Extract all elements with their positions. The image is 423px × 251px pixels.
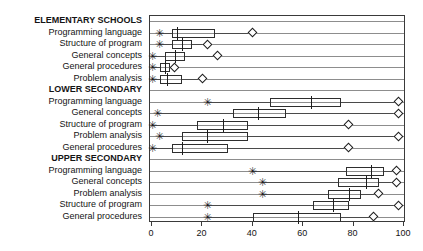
x-tick-mark bbox=[151, 222, 152, 226]
high-outlier-marker bbox=[394, 131, 404, 141]
lower-whisker bbox=[157, 113, 233, 114]
category-label: General concepts bbox=[71, 175, 142, 187]
x-tick-mark bbox=[302, 222, 303, 226]
upper-whisker bbox=[248, 136, 399, 137]
category-label: General concepts bbox=[71, 106, 142, 118]
category-label: Programming language bbox=[48, 95, 142, 107]
plot-area bbox=[149, 15, 405, 222]
upper-whisker bbox=[286, 113, 399, 114]
boxplot-series bbox=[150, 28, 404, 39]
category-label: General procedures bbox=[62, 60, 142, 72]
high-outlier-marker bbox=[394, 97, 404, 107]
boxplot-series bbox=[150, 74, 404, 85]
x-tick-mark bbox=[201, 222, 202, 226]
interquartile-box bbox=[328, 190, 361, 199]
interquartile-box bbox=[172, 144, 227, 153]
median-line bbox=[311, 96, 312, 109]
boxplot-series bbox=[150, 212, 404, 223]
high-outlier-marker bbox=[344, 120, 354, 130]
median-line bbox=[258, 107, 259, 120]
category-label-column: ELEMENTARY SCHOOLSProgramming languageSt… bbox=[0, 0, 146, 251]
boxplot-series bbox=[150, 177, 404, 188]
category-label: Problem analysis bbox=[73, 129, 142, 141]
category-label: Programming language bbox=[48, 164, 142, 176]
x-tick-label: 100 bbox=[388, 227, 418, 239]
lower-whisker bbox=[263, 194, 329, 195]
x-axis-tick-labels: 020406080100 bbox=[149, 227, 405, 241]
boxplot-series bbox=[150, 166, 404, 177]
high-outlier-marker bbox=[391, 177, 401, 187]
high-outlier-marker bbox=[369, 212, 379, 222]
median-line bbox=[349, 188, 350, 201]
x-tick-mark bbox=[353, 222, 354, 226]
gridline bbox=[150, 90, 404, 91]
high-outlier-marker bbox=[170, 62, 180, 72]
boxplot-chart: ELEMENTARY SCHOOLSProgramming languageSt… bbox=[0, 0, 423, 251]
high-outlier-marker bbox=[213, 51, 223, 61]
x-tick-mark bbox=[403, 222, 404, 226]
group-header-label: LOWER SECONDARY bbox=[49, 83, 142, 95]
interquartile-box bbox=[338, 178, 378, 187]
median-line bbox=[333, 199, 334, 212]
interquartile-box bbox=[172, 29, 215, 38]
lower-whisker bbox=[207, 217, 252, 218]
upper-whisker bbox=[228, 148, 349, 149]
median-line bbox=[366, 176, 367, 189]
interquartile-box bbox=[346, 167, 384, 176]
gridline bbox=[150, 21, 404, 22]
x-tick-mark bbox=[252, 222, 253, 226]
category-label: General concepts bbox=[71, 49, 142, 61]
high-outlier-marker bbox=[197, 74, 207, 84]
high-outlier-marker bbox=[391, 166, 401, 176]
gridline bbox=[150, 159, 404, 160]
category-label: Problem analysis bbox=[73, 187, 142, 199]
boxplot-series bbox=[150, 51, 404, 62]
x-tick-label: 0 bbox=[136, 227, 166, 239]
lower-whisker bbox=[207, 102, 270, 103]
high-outlier-marker bbox=[202, 39, 212, 49]
median-line bbox=[223, 119, 224, 132]
boxplot-series bbox=[150, 39, 404, 50]
boxplot-series bbox=[150, 189, 404, 200]
lower-whisker bbox=[253, 171, 346, 172]
lower-whisker bbox=[207, 205, 313, 206]
high-outlier-marker bbox=[248, 28, 258, 38]
category-label: Programming language bbox=[48, 26, 142, 38]
median-line bbox=[177, 27, 178, 40]
interquartile-box bbox=[313, 201, 348, 210]
category-label: General procedures bbox=[62, 141, 142, 153]
median-line bbox=[175, 50, 176, 63]
category-label: Structure of program bbox=[59, 37, 142, 49]
category-label: Structure of program bbox=[59, 118, 142, 130]
x-tick-label: 20 bbox=[186, 227, 216, 239]
high-outlier-marker bbox=[374, 189, 384, 199]
x-tick-label: 80 bbox=[338, 227, 368, 239]
upper-whisker bbox=[248, 125, 349, 126]
interquartile-box bbox=[160, 75, 183, 84]
lower-whisker bbox=[263, 182, 339, 183]
high-outlier-marker bbox=[394, 108, 404, 118]
group-header-label: ELEMENTARY SCHOOLS bbox=[34, 14, 142, 26]
boxplot-series bbox=[150, 108, 404, 119]
boxplot-series bbox=[150, 120, 404, 131]
interquartile-box bbox=[253, 213, 341, 222]
category-label: General procedures bbox=[62, 210, 142, 222]
median-line bbox=[165, 61, 166, 74]
median-line bbox=[182, 38, 183, 51]
high-outlier-marker bbox=[344, 143, 354, 153]
group-header-label: UPPER SECONDARY bbox=[51, 152, 142, 164]
lower-whisker bbox=[152, 125, 197, 126]
boxplot-series bbox=[150, 143, 404, 154]
category-label: Problem analysis bbox=[73, 72, 142, 84]
interquartile-box bbox=[270, 98, 341, 107]
median-line bbox=[167, 73, 168, 86]
x-tick-label: 40 bbox=[237, 227, 267, 239]
boxplot-series bbox=[150, 131, 404, 142]
boxplot-series bbox=[150, 200, 404, 211]
interquartile-box bbox=[233, 109, 286, 118]
median-line bbox=[371, 165, 372, 178]
upper-whisker bbox=[349, 205, 399, 206]
upper-whisker bbox=[341, 102, 399, 103]
boxplot-series bbox=[150, 62, 404, 73]
boxplot-series bbox=[150, 97, 404, 108]
